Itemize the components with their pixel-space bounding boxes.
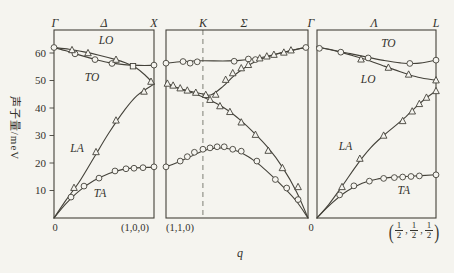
circle-marker bbox=[338, 49, 344, 55]
circle-marker bbox=[400, 174, 406, 180]
y-tick-label: 30 bbox=[35, 129, 47, 141]
triangle-marker bbox=[423, 94, 430, 100]
circle-marker bbox=[184, 154, 190, 160]
circle-marker bbox=[194, 59, 200, 65]
circle-marker bbox=[151, 62, 157, 68]
circle-marker bbox=[272, 177, 278, 183]
y-tick-label: 10 bbox=[35, 184, 47, 196]
panel-X-K-Sigma-gamma bbox=[163, 30, 309, 218]
circle-marker bbox=[214, 144, 220, 150]
circle-marker bbox=[365, 55, 371, 61]
circle-marker bbox=[303, 45, 309, 51]
circle-marker bbox=[140, 165, 146, 171]
branch-label: TA bbox=[94, 187, 108, 199]
circle-marker bbox=[391, 175, 397, 181]
triangle-marker bbox=[238, 65, 245, 71]
bottom-label-fraction: (12,12,12) bbox=[376, 221, 452, 241]
circle-marker bbox=[230, 146, 236, 152]
circle-marker bbox=[351, 183, 357, 189]
symmetry-point-label: K bbox=[198, 16, 208, 30]
circle-marker bbox=[433, 57, 439, 63]
y-axis-label: 声子量/meV bbox=[8, 73, 24, 183]
triangle-marker bbox=[339, 183, 346, 189]
fraction-one-half: 12 bbox=[410, 221, 419, 241]
bottom-axis-label: (1,1,0) bbox=[166, 222, 194, 234]
symmetry-point-label: Σ bbox=[239, 16, 247, 30]
circle-marker bbox=[408, 174, 414, 180]
panel-gamma-lambda-L bbox=[316, 30, 439, 218]
branch-label: LO bbox=[360, 73, 376, 85]
phonon-dispersion-figure: LOTOLATATOLOLATA102030405060ΓΔXKΣΓΛL0(1,… bbox=[0, 0, 454, 273]
square-marker bbox=[130, 64, 135, 69]
circle-marker bbox=[51, 45, 57, 51]
y-tick-label: 20 bbox=[35, 157, 47, 169]
circle-marker bbox=[163, 60, 169, 66]
circle-marker bbox=[316, 45, 322, 51]
fraction-separator: , bbox=[420, 224, 423, 235]
branch-label: LO bbox=[98, 34, 114, 46]
circle-marker bbox=[92, 57, 98, 63]
y-tick-label: 50 bbox=[35, 74, 47, 86]
circle-marker bbox=[221, 144, 227, 150]
branch-label: LA bbox=[338, 140, 353, 152]
triangle-marker bbox=[164, 80, 171, 86]
circle-marker bbox=[407, 61, 413, 67]
symmetry-point-label: L bbox=[432, 16, 440, 30]
fraction-one-half: 12 bbox=[425, 221, 434, 241]
circle-marker bbox=[366, 178, 372, 184]
symmetry-point-label: Λ bbox=[369, 16, 378, 30]
circle-marker bbox=[416, 173, 422, 179]
circle-marker bbox=[163, 164, 169, 170]
circle-marker bbox=[295, 197, 301, 203]
triangle-marker bbox=[227, 108, 234, 114]
circle-marker bbox=[187, 60, 193, 66]
circle-marker bbox=[151, 164, 157, 170]
circle-marker bbox=[254, 158, 260, 164]
circle-marker bbox=[180, 59, 186, 65]
circle-marker bbox=[123, 166, 129, 172]
circle-marker bbox=[381, 176, 387, 182]
triangle-marker bbox=[433, 87, 440, 93]
symmetry-point-label: Γ bbox=[307, 16, 316, 30]
triangle-marker bbox=[71, 184, 78, 190]
circle-marker bbox=[337, 192, 343, 198]
circle-marker bbox=[192, 149, 198, 155]
fraction-separator: , bbox=[405, 224, 408, 235]
circle-marker bbox=[68, 194, 74, 200]
circle-marker bbox=[238, 148, 244, 154]
circle-marker bbox=[433, 172, 439, 178]
branch-curve-TO bbox=[317, 47, 436, 64]
branch-label: TO bbox=[381, 37, 396, 49]
triangle-marker bbox=[229, 69, 236, 75]
y-tick-label: 40 bbox=[35, 102, 47, 114]
triangle-marker bbox=[217, 102, 224, 108]
triangle-marker bbox=[113, 117, 120, 123]
branch-curve-LA bbox=[317, 91, 436, 218]
circle-marker bbox=[131, 165, 137, 171]
symmetry-point-label: Γ bbox=[51, 16, 60, 30]
panel-frame bbox=[317, 30, 436, 218]
triangle-marker bbox=[295, 183, 302, 189]
triangle-marker bbox=[399, 117, 406, 123]
bottom-axis-label: 0 bbox=[308, 222, 313, 233]
bottom-axis-label: 0 bbox=[52, 222, 57, 233]
circle-marker bbox=[200, 146, 206, 152]
triangle-marker bbox=[222, 76, 229, 82]
branch-label: TA bbox=[398, 184, 412, 196]
paren-open: ( bbox=[389, 221, 394, 246]
circle-marker bbox=[81, 183, 87, 189]
y-tick-label: 60 bbox=[35, 47, 47, 59]
symmetry-point-label: X bbox=[149, 16, 158, 30]
circle-marker bbox=[231, 58, 237, 64]
x-axis-label: q bbox=[232, 246, 248, 261]
circle-marker bbox=[177, 158, 183, 164]
symmetry-point-label: Δ bbox=[99, 16, 107, 30]
fraction-one-half: 12 bbox=[395, 221, 404, 241]
circle-marker bbox=[207, 145, 213, 151]
bottom-axis-label: (1,0,0) bbox=[121, 222, 149, 234]
circle-marker bbox=[284, 185, 290, 191]
paren-close: ) bbox=[434, 221, 439, 246]
branch-label: LA bbox=[69, 142, 84, 154]
circle-marker bbox=[96, 175, 102, 181]
triangle-marker bbox=[279, 164, 286, 170]
